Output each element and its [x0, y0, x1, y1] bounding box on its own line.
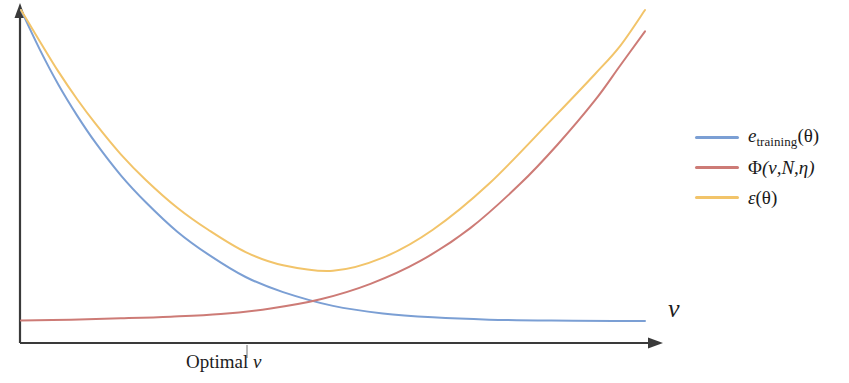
- legend-label-total-error: ε(θ): [748, 188, 777, 207]
- legend-swatch-training-error: [695, 136, 739, 139]
- legend-item-training-error[interactable]: etraining(θ): [695, 122, 849, 152]
- legend-swatch-complexity-penalty: [695, 166, 739, 169]
- x-axis-label: ν: [668, 296, 680, 322]
- optimal-nu-caption: Optimal ν: [186, 352, 261, 371]
- legend-subscript-training-error: training: [756, 133, 797, 148]
- legend-arg-training-error: (θ): [797, 125, 819, 146]
- optimal-caption-prefix: Optimal: [186, 351, 253, 372]
- legend-label-training-error: etraining(θ): [748, 126, 819, 149]
- legend-base-complexity-penalty: Φ: [748, 157, 762, 178]
- legend-swatch-total-error: [695, 196, 739, 199]
- x-axis-arrowhead: [648, 338, 663, 349]
- legend-arg-complexity-penalty: (ν,N,η): [762, 157, 815, 178]
- legend-base-total-error: ε: [748, 187, 756, 208]
- legend-item-total-error[interactable]: ε(θ): [695, 182, 849, 212]
- chart-figure: ν Optimal ν etraining(θ) Φ(ν,N,η) ε(θ): [0, 0, 849, 383]
- curve-complexity-penalty: [21, 31, 645, 320]
- legend-arg-total-error: (θ): [756, 187, 778, 208]
- chart-legend: etraining(θ) Φ(ν,N,η) ε(θ): [695, 122, 849, 212]
- curve-training-error: [21, 10, 645, 321]
- optimal-caption-symbol: ν: [253, 351, 261, 372]
- legend-label-complexity-penalty: Φ(ν,N,η): [748, 158, 815, 177]
- curve-total-error: [21, 10, 645, 271]
- legend-item-complexity-penalty[interactable]: Φ(ν,N,η): [695, 152, 849, 182]
